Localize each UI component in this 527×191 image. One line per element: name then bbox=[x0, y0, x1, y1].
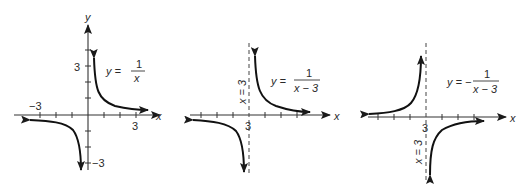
tick-label-x-pos: 3 bbox=[422, 122, 428, 134]
curve-lower-left bbox=[193, 120, 244, 172]
tick-label-x-neg: −3 bbox=[29, 100, 42, 112]
figure: y x −3 3 3 −3 y = 1 x x 3 x = 3 y = 1 x … bbox=[0, 0, 527, 191]
equation-numerator: 1 bbox=[136, 58, 142, 70]
equation-denominator: x bbox=[133, 72, 140, 84]
equation-2: y = 1 x − 3 bbox=[270, 67, 320, 94]
equation-1: y = 1 x bbox=[105, 58, 145, 84]
x-axis-label: x bbox=[509, 112, 516, 124]
x-axis-label: x bbox=[155, 110, 162, 122]
equation-denominator: x − 3 bbox=[293, 82, 319, 94]
y-axis-label: y bbox=[84, 11, 92, 23]
curve-lower-right bbox=[430, 121, 484, 175]
panel-1-graph: y x −3 3 3 −3 y = 1 x bbox=[14, 11, 162, 170]
equation-lhs: y = − bbox=[446, 76, 472, 88]
curve-upper-left bbox=[369, 56, 421, 114]
tick-label-x-pos: 3 bbox=[132, 120, 138, 132]
equation-numerator: 1 bbox=[306, 67, 312, 79]
tick-label-y-pos: 3 bbox=[74, 61, 80, 73]
curve-lower-left bbox=[30, 120, 81, 170]
equation-lhs: y = bbox=[105, 65, 122, 77]
asymptote-label: x = 3 bbox=[236, 79, 248, 105]
panel-3-graph: x 3 x = 3 y = − 1 x − 3 bbox=[368, 43, 516, 180]
tick-label-x-pos: 3 bbox=[245, 120, 251, 132]
x-axis-label: x bbox=[333, 110, 340, 122]
equation-numerator: 1 bbox=[484, 68, 490, 80]
panel-2-graph: x 3 x = 3 y = 1 x − 3 bbox=[190, 43, 340, 175]
asymptote-label: x = 3 bbox=[412, 139, 424, 165]
equation-3: y = − 1 x − 3 bbox=[446, 68, 499, 95]
equation-denominator: x − 3 bbox=[472, 83, 498, 95]
equation-lhs: y = bbox=[270, 75, 287, 87]
tick-label-y-neg: −3 bbox=[92, 157, 105, 169]
